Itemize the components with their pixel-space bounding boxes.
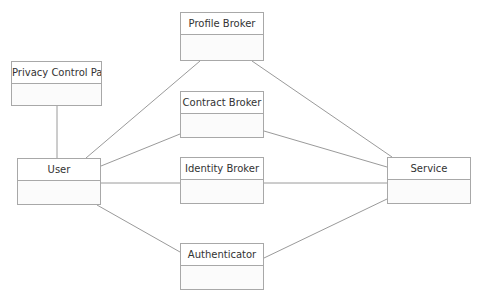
edge-contract-service [264, 131, 387, 167]
edge-user-contract [101, 134, 180, 166]
edge-profile-service [252, 61, 392, 157]
node-compartment [18, 181, 100, 204]
node-profile: Profile Broker [180, 12, 264, 61]
node-compartment [12, 84, 101, 105]
node-compartment [181, 266, 263, 289]
uml-diagram: Profile BrokerPrivacy Control PanelContr… [0, 0, 477, 303]
node-label: Contract Broker [181, 92, 263, 114]
node-compartment [181, 180, 263, 203]
edge-auth-service [264, 199, 387, 258]
node-label: Authenticator [181, 244, 263, 266]
node-label: User [18, 159, 100, 181]
node-label: Identity Broker [181, 158, 263, 180]
node-label: Privacy Control Panel [12, 62, 101, 84]
node-label: Profile Broker [181, 13, 263, 35]
node-service: Service [387, 157, 471, 204]
edge-user-auth [97, 205, 180, 252]
node-compartment [181, 114, 263, 137]
node-contract: Contract Broker [180, 91, 264, 138]
node-privacy: Privacy Control Panel [11, 61, 102, 106]
node-auth: Authenticator [180, 243, 264, 290]
node-compartment [181, 35, 263, 60]
node-user: User [17, 158, 101, 205]
node-label: Service [388, 158, 470, 180]
node-identity: Identity Broker [180, 157, 264, 204]
node-compartment [388, 180, 470, 203]
